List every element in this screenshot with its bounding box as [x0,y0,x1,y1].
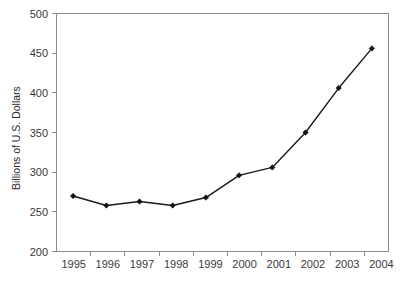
x-tick-group-8: 2003 [335,252,364,271]
y-tick-label: 200 [30,246,48,258]
data-point [70,193,75,198]
x-tick-label: 1995 [61,258,85,270]
y-tick-label: 400 [30,87,48,99]
x-tick-label: 1996 [96,258,120,270]
x-tick-group-9: 2004 [369,258,393,270]
series-line [73,48,372,205]
y-tick-group-6: 500 [30,8,57,20]
y-tick-group-2: 300 [30,166,57,178]
x-tick-group-7: 2002 [301,252,330,271]
y-axis: 200 250 300 350 400 450 [30,8,57,258]
x-tick-group-3: 1998 [164,252,193,271]
x-tick-label: 1999 [198,258,222,270]
x-tick-label: 2001 [267,258,291,270]
y-axis-title: Billions of U.S. Dollars [10,86,22,190]
x-tick-label: 1998 [164,258,188,270]
y-tick-label: 300 [30,166,48,178]
chart-canvas: 200 250 300 350 400 450 [0,0,412,287]
y-tick-group-0: 200 [30,246,57,258]
x-tick-group-2: 1997 [130,252,159,271]
plot-frame [57,14,389,252]
x-tick-label: 2000 [232,258,256,270]
x-tick-group-4: 1999 [198,252,227,271]
x-axis: 1995 1996 1997 1998 1999 2000 [61,252,393,271]
x-tick-label: 2002 [301,258,325,270]
x-tick-label: 1997 [130,258,154,270]
data-point [137,199,142,204]
y-tick-label: 250 [30,206,48,218]
x-tick-label: 2004 [369,258,393,270]
x-tick-group-6: 2001 [267,252,296,271]
y-tick-group-1: 250 [30,206,57,218]
line-chart: 200 250 300 350 400 450 [0,0,412,287]
y-tick-group-4: 400 [30,87,57,99]
data-series [70,46,374,208]
y-tick-label: 450 [30,47,48,59]
data-point [104,203,109,208]
x-tick-group-0: 1995 [61,252,90,271]
x-tick-label: 2003 [335,258,359,270]
y-tick-label: 350 [30,127,48,139]
y-tick-group-5: 450 [30,47,57,59]
data-point [170,203,175,208]
x-tick-group-5: 2000 [232,252,261,271]
series-markers [70,46,374,208]
x-tick-group-1: 1996 [96,252,125,271]
y-tick-label: 500 [30,8,48,20]
y-tick-group-3: 350 [30,127,57,139]
